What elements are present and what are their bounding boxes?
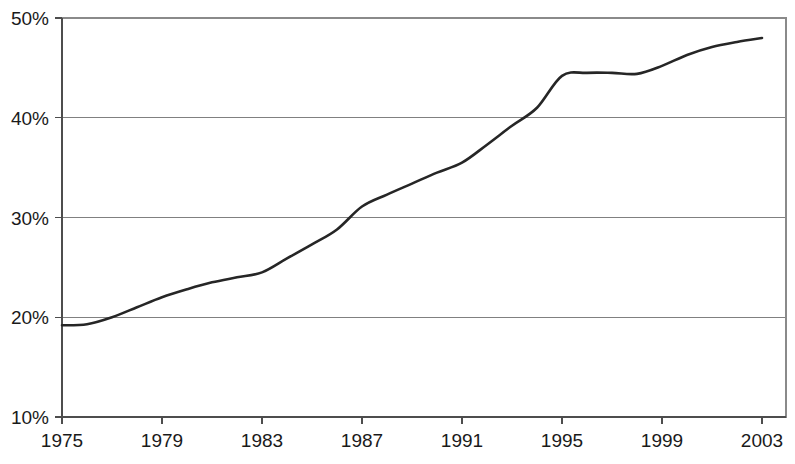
x-tick-label: 1991: [441, 430, 483, 451]
x-tick-label: 1983: [241, 430, 283, 451]
y-tick-label: 20%: [11, 307, 49, 328]
y-tick-labels: 50%40%30%20%10%: [11, 8, 49, 428]
data-line-series-0: [62, 38, 762, 325]
x-tick-label: 1987: [341, 430, 383, 451]
gridlines: [62, 118, 786, 417]
y-tick-label: 10%: [11, 407, 49, 428]
x-tick-label: 1999: [641, 430, 683, 451]
y-tick-label: 40%: [11, 108, 49, 129]
line-chart: 50%40%30%20%10% 197519791983198719911995…: [0, 0, 795, 464]
y-tick-label: 30%: [11, 208, 49, 229]
x-tick-label: 1995: [541, 430, 583, 451]
data-series-group: [62, 38, 762, 325]
y-axis: [55, 18, 62, 417]
y-tick-label: 50%: [11, 8, 49, 29]
x-tick-label: 1975: [41, 430, 83, 451]
x-axis: [62, 417, 786, 424]
chart-canvas: 50%40%30%20%10% 197519791983198719911995…: [0, 0, 795, 464]
x-tick-label: 2003: [741, 430, 783, 451]
x-tick-labels: 19751979198319871991199519992003: [41, 430, 783, 451]
x-tick-label: 1979: [141, 430, 183, 451]
